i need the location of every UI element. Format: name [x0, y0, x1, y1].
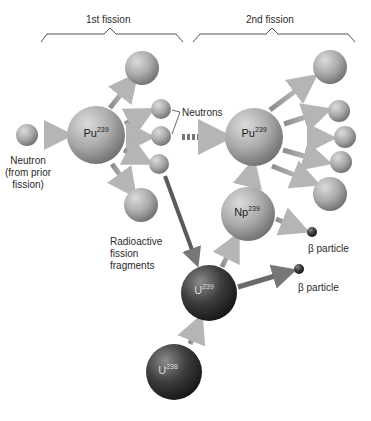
diagram-graphics [0, 0, 371, 421]
capture-arrow [165, 176, 195, 258]
fragments-label-line1: Radioactive [110, 236, 162, 248]
pu239-label-second: Pu239 [241, 126, 266, 139]
neutron-out-3 [330, 151, 352, 173]
neutron-from-prior-label: Neutron (from prior fission) [2, 155, 54, 191]
bracket-second-fission [193, 28, 355, 42]
neutron-1 [151, 99, 171, 119]
u239-label: U239 [194, 283, 214, 296]
fission-fragment-top-first [125, 51, 159, 85]
header-second-fission: 2nd fission [246, 14, 294, 26]
neutron-label-line3: fission) [2, 179, 54, 191]
beta-particle-label-1: β particle [308, 243, 349, 255]
neutrons-bracket [172, 110, 180, 134]
neutron-2 [151, 126, 171, 146]
neutron-out-1 [328, 100, 350, 122]
bracket-first-fission [41, 28, 183, 42]
fission-fragment-bottom-first [124, 188, 158, 222]
beta-particle-1 [307, 227, 317, 237]
beta-particle-label-2: β particle [298, 282, 339, 294]
fragments-label-line2: fission [110, 248, 162, 260]
neutron-3 [149, 154, 169, 174]
beta-arrow-u239 [238, 273, 285, 287]
neutrons-label: Neutrons [182, 107, 223, 119]
fission-fragment-bottom-second [313, 177, 347, 211]
beta-particle-2 [294, 264, 304, 274]
header-first-fission: 1st fission [86, 14, 130, 26]
np239-label: Np239 [234, 205, 260, 218]
fragments-label-line3: fragments [110, 260, 162, 272]
fission-fragment-top-second [313, 50, 347, 84]
fission-diagram: 1st fission 2nd fission Pu239 Pu239 Np23… [0, 0, 371, 421]
neutron-out-2 [334, 126, 356, 148]
incoming-neutron [16, 124, 38, 146]
fission-fragments-label: Radioactive fission fragments [110, 236, 162, 272]
neutron-label-line1: Neutron [2, 155, 54, 167]
neutron-label-line2: (from prior [2, 167, 54, 179]
u238-label: U238 [158, 363, 178, 376]
pu239-label-first: Pu239 [83, 126, 108, 139]
